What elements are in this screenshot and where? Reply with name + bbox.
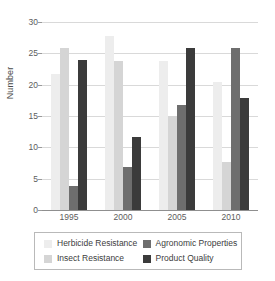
x-tick-2010: 2010: [204, 212, 258, 222]
bar-set: [159, 22, 195, 210]
chart-legend: Herbicide ResistanceAgronomic Properties…: [34, 232, 242, 270]
bar: [231, 48, 240, 210]
x-axis-labels: 1995 2000 2005 2010: [42, 212, 258, 222]
bar: [114, 61, 123, 210]
legend-item: Product Quality: [143, 251, 242, 266]
x-tick-2000: 2000: [96, 212, 150, 222]
x-tick-1995: 1995: [42, 212, 96, 222]
bar-chart: Number 30 25 20 15 10 5 0 1995 2000 2005…: [0, 0, 275, 281]
legend-swatch-icon: [143, 240, 151, 248]
bar: [186, 48, 195, 210]
legend-label: Herbicide Resistance: [57, 239, 137, 248]
legend-label: Agronomic Properties: [156, 239, 238, 248]
legend-swatch-icon: [143, 255, 151, 263]
bar: [240, 98, 249, 210]
bar: [177, 105, 186, 210]
x-axis-line: [42, 210, 258, 211]
bar-set: [105, 22, 141, 210]
bar-set: [51, 22, 87, 210]
legend-label: Product Quality: [156, 254, 214, 263]
bar-set: [213, 22, 249, 210]
legend-label: Insect Resistance: [57, 254, 124, 263]
bar: [51, 74, 60, 210]
bar: [60, 48, 69, 210]
bar: [105, 36, 114, 210]
bar-group-1995: [42, 22, 96, 210]
bar: [78, 60, 87, 210]
legend-item: Agronomic Properties: [143, 236, 242, 251]
bar: [132, 137, 141, 210]
plot-area: [42, 22, 258, 210]
bar: [123, 167, 132, 210]
legend-swatch-icon: [44, 240, 52, 248]
bar: [69, 186, 78, 210]
bar: [159, 61, 168, 210]
legend-item: Herbicide Resistance: [44, 236, 143, 251]
bar: [222, 162, 231, 210]
bar-group-2010: [204, 22, 258, 210]
legend-item: Insect Resistance: [44, 251, 143, 266]
y-tick-marks: [8, 22, 42, 210]
bar-group-2005: [150, 22, 204, 210]
bar: [213, 82, 222, 210]
x-tick-2005: 2005: [150, 212, 204, 222]
bar-groups: [42, 22, 258, 210]
bar: [168, 116, 177, 210]
legend-swatch-icon: [44, 255, 52, 263]
bar-group-2000: [96, 22, 150, 210]
